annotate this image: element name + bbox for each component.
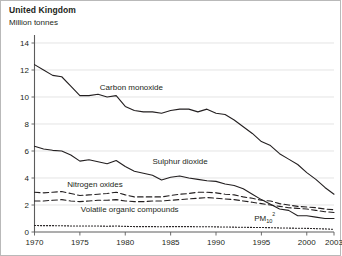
y-axis-tick-label: 8 [25,120,30,129]
x-axis-tick-label: 1995 [252,238,270,247]
series-label: Nitrogen oxides [67,180,123,189]
series-label: PM102 [254,211,275,223]
series-labels-group: Carbon monoxideCarbon monoxideSulphur di… [67,83,275,223]
y-axis-tick-label: 14 [20,39,29,48]
series-label: Carbon monoxide [100,83,164,92]
series-line [35,65,335,195]
y-axis-tick-label: 0 [25,228,30,237]
x-axis-tick-label: 1980 [116,238,134,247]
y-axis-tick-label: 10 [20,93,29,102]
series-label: Volatile organic compounds [81,205,179,214]
x-axis-tick-label: 1990 [207,238,225,247]
y-axis-tick-label: 4 [25,174,30,183]
page-title: United Kingdom [9,5,76,15]
x-axis-tick-label: 1970 [26,238,44,247]
series-line [35,226,335,230]
x-axis-tick-label: 1985 [162,238,180,247]
chart-units-label: Million tonnes [9,18,58,27]
y-axis-tick-label: 12 [20,66,29,75]
y-axis-tick-label: 6 [25,147,30,156]
line-chart-plot: 02468101214 1970197519801985199019952000… [1,27,342,255]
y-axis-ticks-group: 02468101214 [20,39,34,237]
y-axis-tick-label: 2 [25,201,30,210]
x-axis-tick-label: 1975 [71,238,89,247]
series-label: Sulphur dioxide [152,157,208,166]
x-axis-ticks-group: 19701975198019851990199520002003 [26,232,342,247]
series-lines-group [35,65,335,230]
x-axis-tick-label: 2000 [298,238,316,247]
series-line [35,192,335,210]
x-axis-tick-label: 2003 [325,238,342,247]
